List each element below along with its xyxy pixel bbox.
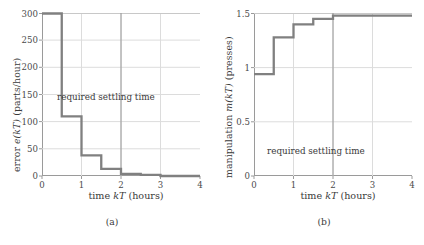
panel-b: manipulation m(kT) (presses) [212, 0, 424, 245]
y-tick-b-0.5: 0.5 [226, 117, 250, 127]
x-tick-b-0: 0 [251, 180, 256, 190]
figure-two-panel-step-plots: error e(kT) (parts/hour) [0, 0, 424, 245]
panel-a: error e(kT) (parts/hour) [0, 0, 212, 245]
y-axis-label-b: manipulation m(kT) (presses) [223, 36, 234, 178]
x-tick-a-2: 2 [118, 180, 123, 190]
x-tick-b-2: 2 [330, 180, 335, 190]
y-tick-a-100: 100 [10, 117, 38, 127]
x-tick-a-4: 4 [197, 180, 202, 190]
annotation-settling-time-a: required settling time [57, 92, 155, 102]
y-tick-a-200: 200 [10, 62, 38, 72]
x-axis-label-a: time kT (hours) [20, 190, 232, 201]
x-axis-label-b: time kT (hours) [232, 190, 424, 201]
y-tick-a-150: 150 [10, 90, 38, 100]
x-tick-b-3: 3 [370, 180, 375, 190]
x-tick-a-1: 1 [79, 180, 84, 190]
y-tick-a-0: 0 [10, 171, 38, 181]
y-axis-label-a: error e(kT) (parts/hour) [11, 58, 22, 172]
y-tick-a-300: 300 [10, 9, 38, 19]
y-tick-b-0: 0 [226, 171, 250, 181]
panel-caption-b: (b) [218, 216, 424, 227]
y-tick-b-1.5: 1.5 [226, 9, 250, 19]
y-tick-a-250: 250 [10, 35, 38, 45]
y-tick-a-50: 50 [10, 144, 38, 154]
x-tick-b-1: 1 [291, 180, 296, 190]
y-tick-b-1: 1 [226, 63, 250, 73]
x-tick-b-4: 4 [409, 180, 414, 190]
panel-caption-a: (a) [6, 216, 218, 227]
x-tick-a-3: 3 [158, 180, 163, 190]
annotation-settling-time-b: required settling time [267, 146, 365, 156]
x-tick-a-0: 0 [39, 180, 44, 190]
